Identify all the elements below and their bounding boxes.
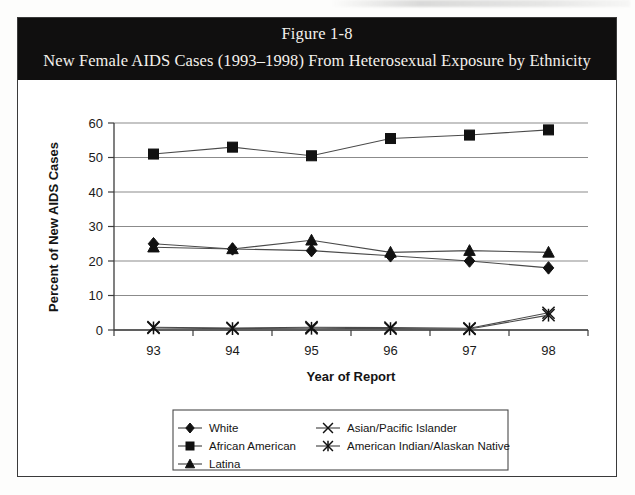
scanned-page: Figure 1-8 New Female AIDS Cases (1993–1… bbox=[0, 0, 635, 495]
legend-label: American Indian/Alaskan Native bbox=[347, 440, 510, 452]
data-point-diamond bbox=[464, 255, 475, 268]
x-tick-label: 94 bbox=[225, 343, 239, 358]
data-point-asterisk bbox=[542, 309, 554, 322]
legend-label: Latina bbox=[209, 458, 241, 470]
y-tick-label: 30 bbox=[89, 219, 103, 234]
legend-label: Asian/Pacific Islander bbox=[347, 422, 457, 434]
legend-label: White bbox=[209, 422, 238, 434]
figure-number: Figure 1-8 bbox=[18, 21, 616, 47]
y-tick-label: 10 bbox=[89, 288, 103, 303]
data-point-square bbox=[386, 134, 396, 144]
data-point-diamond bbox=[543, 262, 554, 275]
series-african-american bbox=[149, 125, 554, 161]
gridlines bbox=[114, 123, 588, 330]
x-tick-label: 95 bbox=[304, 343, 318, 358]
y-tick-label: 40 bbox=[89, 185, 103, 200]
chart-area: 0102030405060 939495969798 Percent of Ne… bbox=[18, 80, 616, 476]
y-axis-title: Percent of New AIDS Cases bbox=[46, 142, 61, 312]
x-tick-label: 93 bbox=[146, 343, 160, 358]
axis-ticks bbox=[108, 123, 588, 336]
data-point-diamond bbox=[306, 244, 317, 257]
title-banner: Figure 1-8 New Female AIDS Cases (1993–1… bbox=[18, 18, 616, 80]
x-tick-label: 98 bbox=[541, 343, 555, 358]
data-point-triangle bbox=[306, 234, 318, 245]
line-chart: 0102030405060 939495969798 Percent of Ne… bbox=[18, 80, 616, 476]
data-point-square bbox=[149, 149, 159, 159]
y-tick-label: 0 bbox=[96, 323, 103, 338]
data-point-square bbox=[307, 151, 317, 161]
series-white bbox=[148, 238, 554, 275]
data-point-square bbox=[186, 442, 194, 450]
y-tick-label: 50 bbox=[89, 150, 103, 165]
x-axis-title: Year of Report bbox=[307, 369, 397, 384]
chart-legend: WhiteAfrican AmericanLatinaAsian/Pacific… bbox=[173, 410, 510, 470]
y-tick-label: 20 bbox=[89, 254, 103, 269]
scan-bleed-artifact bbox=[330, 0, 630, 7]
legend-label: African American bbox=[209, 440, 296, 452]
data-point-square bbox=[465, 130, 475, 140]
data-point-square bbox=[228, 142, 238, 152]
figure-title: New Female AIDS Cases (1993–1998) From H… bbox=[18, 47, 616, 75]
data-series bbox=[147, 125, 554, 335]
x-axis-tick-labels: 939495969798 bbox=[146, 343, 555, 358]
data-point-triangle bbox=[464, 245, 476, 256]
figure-frame: Figure 1-8 New Female AIDS Cases (1993–1… bbox=[17, 17, 617, 477]
data-point-square bbox=[544, 125, 554, 135]
x-tick-label: 96 bbox=[383, 343, 397, 358]
x-tick-label: 97 bbox=[462, 343, 476, 358]
y-tick-label: 60 bbox=[89, 116, 103, 131]
y-axis-tick-labels: 0102030405060 bbox=[89, 116, 103, 338]
